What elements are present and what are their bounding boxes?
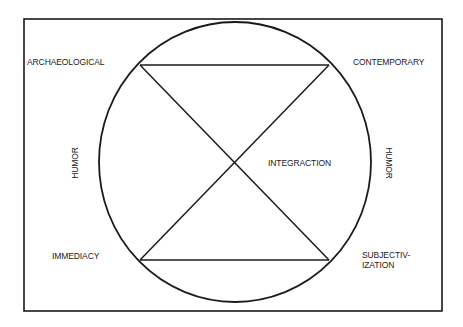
label-subjectivization-line1: SUBJECTIV- — [362, 250, 410, 260]
label-humor-right: HUMOR — [384, 147, 394, 179]
label-subjectivization-line2: IZATION — [362, 260, 410, 270]
label-subjectivization: SUBJECTIV- IZATION — [362, 250, 410, 270]
hourglass-circle-diagram: ARCHAEOLOGICAL CONTEMPORARY IMMEDIACY SU… — [0, 0, 463, 327]
label-humor-left: HUMOR — [70, 147, 80, 179]
label-archaeological: ARCHAEOLOGICAL — [27, 57, 104, 67]
label-immediacy: IMMEDIACY — [52, 251, 99, 261]
label-integraction: INTEGRACTION — [268, 158, 331, 168]
label-contemporary: CONTEMPORARY — [353, 57, 424, 67]
